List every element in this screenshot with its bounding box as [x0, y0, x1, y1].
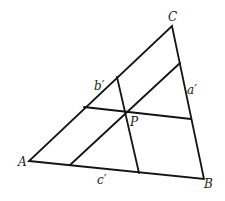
triangle-ABC	[29, 26, 204, 179]
line-parallel-to-AC	[70, 63, 180, 165]
segment-label-a-prime: a′	[187, 83, 197, 97]
segment-label-c-prime: c′	[97, 173, 107, 187]
vertex-label-C: C	[168, 10, 177, 24]
point-label-P: P	[129, 115, 139, 129]
vertex-label-A: A	[17, 155, 27, 169]
vertex-label-B: B	[203, 177, 213, 191]
triangle-diagram: C A B P b′ a′ c′	[0, 0, 225, 201]
segment-label-b-prime: b′	[94, 79, 105, 93]
